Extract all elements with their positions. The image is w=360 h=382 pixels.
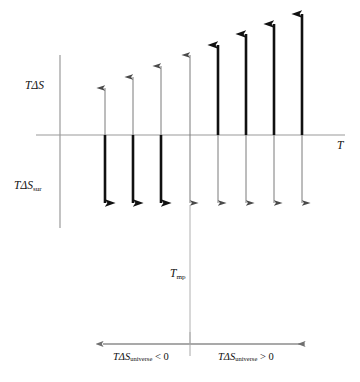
entropy-diagram <box>0 0 360 382</box>
transition-point-label: Tmp <box>170 268 186 281</box>
left-region-label: TΔSuniverse < 0 <box>113 352 169 363</box>
arrow-pairs-group <box>105 14 302 203</box>
y-axis-label: TΔS <box>25 80 44 92</box>
right-region-label: TΔSuniverse > 0 <box>218 352 274 363</box>
y-axis-lower-label: TΔSsur <box>14 180 42 193</box>
x-axis-label: T <box>337 140 343 152</box>
